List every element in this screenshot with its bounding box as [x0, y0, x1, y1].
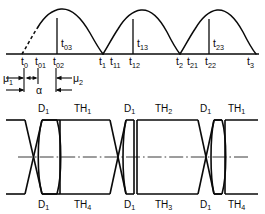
top-label-th1-b: TH1	[228, 103, 245, 116]
label-t03-subscript: 03	[64, 43, 72, 52]
top-label-d1-a-subscript: 1	[45, 107, 49, 116]
dimension-annotation-group: μ1 μ2 α	[3, 68, 83, 96]
label-t01: t01	[35, 55, 46, 70]
label-t23-subscript: 23	[216, 43, 224, 52]
bottom-label-d1-b-subscript: 1	[131, 203, 135, 212]
top-label-th1-b-subscript: 1	[241, 107, 245, 116]
label-t12-subscript: 12	[132, 61, 140, 70]
top-label-th1-a-subscript: 1	[87, 107, 91, 116]
label-t22-subscript: 22	[208, 61, 216, 70]
mu-gap-arrowhead-right	[33, 76, 38, 80]
bottom-label-d1-b: D1	[124, 199, 135, 212]
top-label-th2: TH2	[155, 103, 172, 116]
label-mu1-subscript: 1	[9, 78, 13, 87]
figure-root: t03 t13 t23 t0 t01 t02 t1 t11 t12 t2 t21…	[0, 0, 265, 214]
label-t13: t13	[137, 37, 148, 52]
top-label-th2-subscript: 2	[168, 107, 172, 116]
bottom-label-d1-a-subscript: 1	[45, 203, 49, 212]
label-t02-subscript: 02	[56, 61, 64, 70]
label-t1: t1	[99, 55, 106, 70]
label-mu2: μ2	[73, 72, 83, 87]
label-t23: t23	[213, 37, 224, 52]
label-t3-subscript: 3	[250, 61, 254, 70]
label-t3: t3	[247, 55, 254, 70]
top-label-d1-c: D1	[200, 103, 211, 116]
label-t21-subscript: 21	[190, 61, 198, 70]
label-t11-subscript: 11	[113, 61, 120, 70]
bottom-label-th4-b: TH4	[228, 199, 245, 212]
bottom-label-d1-c-subscript: 1	[207, 203, 211, 212]
mu-gap-arrowhead-left	[26, 76, 31, 80]
top-label-d1-a: D1	[38, 103, 49, 116]
bottom-label-d1-a: D1	[38, 199, 49, 212]
label-t2-subscript: 2	[179, 61, 183, 70]
label-mu1: μ1	[3, 72, 13, 87]
arch-1-dashed-leading-edge	[22, 27, 38, 54]
label-t03: t03	[61, 37, 72, 52]
lower-timing-diagram-group: D1 TH1 D1 TH2 D1 TH1	[6, 103, 258, 212]
label-t22: t22	[205, 55, 216, 70]
top-label-d1-c-subscript: 1	[207, 107, 211, 116]
top-label-d1-b: D1	[124, 103, 135, 116]
label-t21: t21	[187, 55, 198, 70]
label-alpha: α	[36, 84, 42, 96]
bottom-label-th4-a: TH4	[74, 199, 91, 212]
bottom-label-th3-subscript: 3	[168, 203, 172, 212]
bottom-label-th4-b-subscript: 4	[241, 203, 245, 212]
top-label-d1-b-subscript: 1	[131, 107, 135, 116]
label-t0: t0	[21, 55, 28, 70]
technical-diagram-svg: t03 t13 t23 t0 t01 t02 t1 t11 t12 t2 t21…	[0, 0, 265, 214]
mu1-arrowhead	[19, 76, 25, 80]
crossB-lens-left	[123, 120, 126, 194]
top-label-th1-a: TH1	[74, 103, 91, 116]
label-t02: t02	[53, 55, 64, 70]
label-t11: t11	[110, 55, 120, 70]
upper-waveform-group: t03 t13 t23 t0 t01 t02 t1 t11 t12 t2 t21…	[6, 9, 259, 70]
label-t01-subscript: 01	[38, 61, 46, 70]
bottom-label-th3: TH3	[155, 199, 172, 212]
bottom-label-d1-c: D1	[200, 199, 211, 212]
label-mu2-subscript: 2	[79, 78, 83, 87]
label-t2: t2	[176, 55, 183, 70]
bottom-label-th4-a-subscript: 4	[87, 203, 91, 212]
label-t1-subscript: 1	[102, 61, 106, 70]
mu2-arrowhead	[56, 76, 62, 80]
label-t12: t12	[129, 55, 140, 70]
label-t13-subscript: 13	[140, 43, 148, 52]
